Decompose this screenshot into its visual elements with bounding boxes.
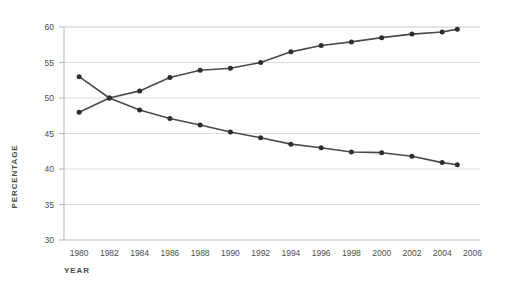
- x-tick-label: 2000: [365, 248, 399, 258]
- y-tick-label: 45: [30, 129, 54, 139]
- x-tick-label: 1996: [304, 248, 338, 258]
- x-tick-label: 1998: [334, 248, 368, 258]
- y-tick-label: 60: [30, 22, 54, 32]
- data-point: [349, 39, 354, 44]
- data-point: [107, 96, 112, 101]
- x-tick-label: 1986: [153, 248, 187, 258]
- y-axis-title: PERCENTAGE: [10, 137, 19, 217]
- data-point: [455, 27, 460, 32]
- data-point: [288, 49, 293, 54]
- data-point: [258, 135, 263, 140]
- data-point: [440, 160, 445, 165]
- data-point: [440, 29, 445, 34]
- x-tick-label: 1992: [244, 248, 278, 258]
- x-tick-label: 1982: [92, 248, 126, 258]
- data-point: [167, 116, 172, 121]
- y-tick-label: 35: [30, 200, 54, 210]
- data-point: [137, 88, 142, 93]
- data-point: [409, 32, 414, 37]
- y-tick-label: 30: [30, 235, 54, 245]
- data-point: [198, 68, 203, 73]
- data-point: [77, 110, 82, 115]
- data-point: [409, 154, 414, 159]
- x-axis-title: YEAR: [64, 266, 90, 275]
- data-point: [198, 122, 203, 127]
- x-tick-label: 2006: [455, 248, 489, 258]
- data-point: [228, 66, 233, 71]
- y-tick-label: 50: [30, 93, 54, 103]
- x-tick-label: 1990: [213, 248, 247, 258]
- data-point: [167, 75, 172, 80]
- x-tick-label: 1988: [183, 248, 217, 258]
- data-point: [455, 162, 460, 167]
- x-tick-label: 1994: [274, 248, 308, 258]
- x-tick-label: 1984: [123, 248, 157, 258]
- y-tick-label: 55: [30, 58, 54, 68]
- data-point: [349, 149, 354, 154]
- y-tick-label: 40: [30, 164, 54, 174]
- data-point: [319, 145, 324, 150]
- x-tick-label: 2002: [395, 248, 429, 258]
- data-point: [379, 35, 384, 40]
- data-point: [258, 60, 263, 65]
- data-point: [77, 74, 82, 79]
- y-tick-marks: [59, 27, 64, 240]
- line-chart: 30354045505560 1980198219841986198819901…: [0, 0, 508, 295]
- data-point: [319, 43, 324, 48]
- x-tick-label: 1980: [62, 248, 96, 258]
- data-point: [288, 142, 293, 147]
- data-point: [137, 108, 142, 113]
- x-tick-label: 2004: [425, 248, 459, 258]
- data-point: [379, 150, 384, 155]
- data-point: [228, 130, 233, 135]
